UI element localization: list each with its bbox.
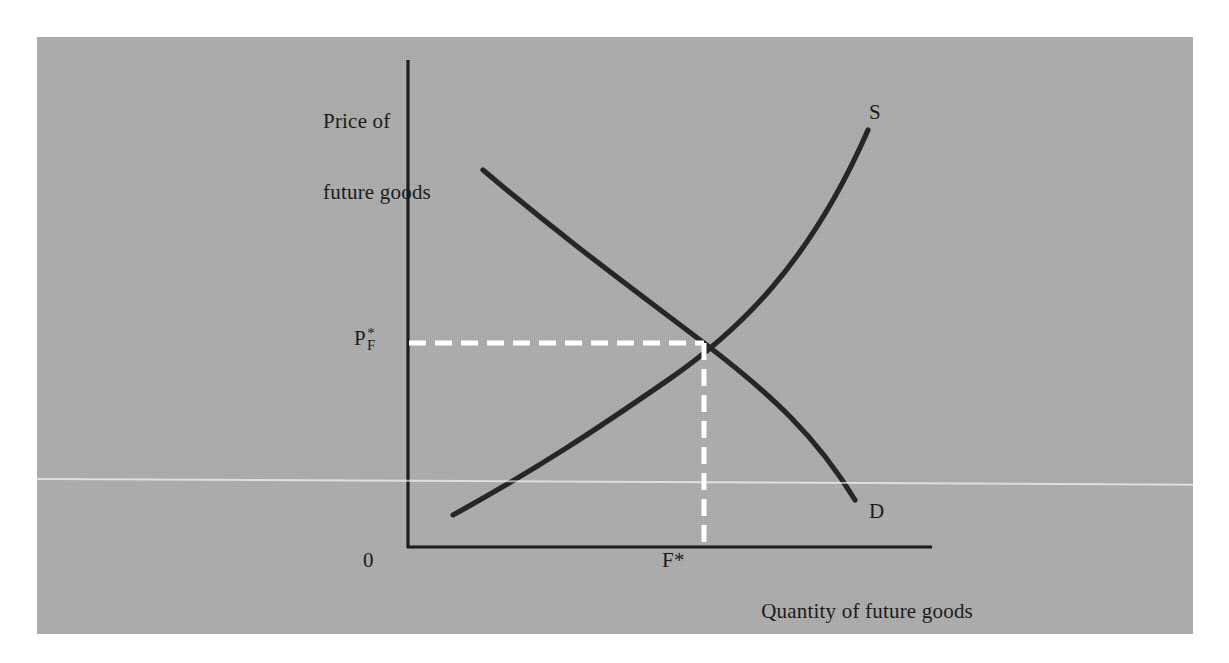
demand-curve-label: D: [869, 500, 884, 524]
demand-curve: [483, 170, 855, 500]
equilibrium-quantity-label: F*: [662, 549, 685, 573]
supply-demand-plot: [37, 37, 1193, 634]
equilibrium-price-label: P * F: [354, 327, 375, 351]
origin-label: 0: [363, 549, 374, 573]
x-axis-label: Quantity of future goods per week: [701, 553, 973, 634]
x-axis-label-line1: Quantity of future goods: [701, 600, 973, 624]
figure-panel: Price of future goods Quantity of future…: [37, 37, 1193, 634]
equilibrium-price-affixes: * F: [367, 328, 376, 351]
supply-curve: [453, 130, 868, 515]
equilibrium-price-subscript: F: [367, 340, 376, 352]
y-axis-label-line1: Price of: [323, 110, 431, 134]
y-axis-label-line2: future goods: [323, 181, 431, 205]
y-axis-label: Price of future goods: [323, 63, 431, 251]
equilibrium-price-base: P: [354, 327, 366, 351]
supply-curve-label: S: [869, 101, 881, 125]
